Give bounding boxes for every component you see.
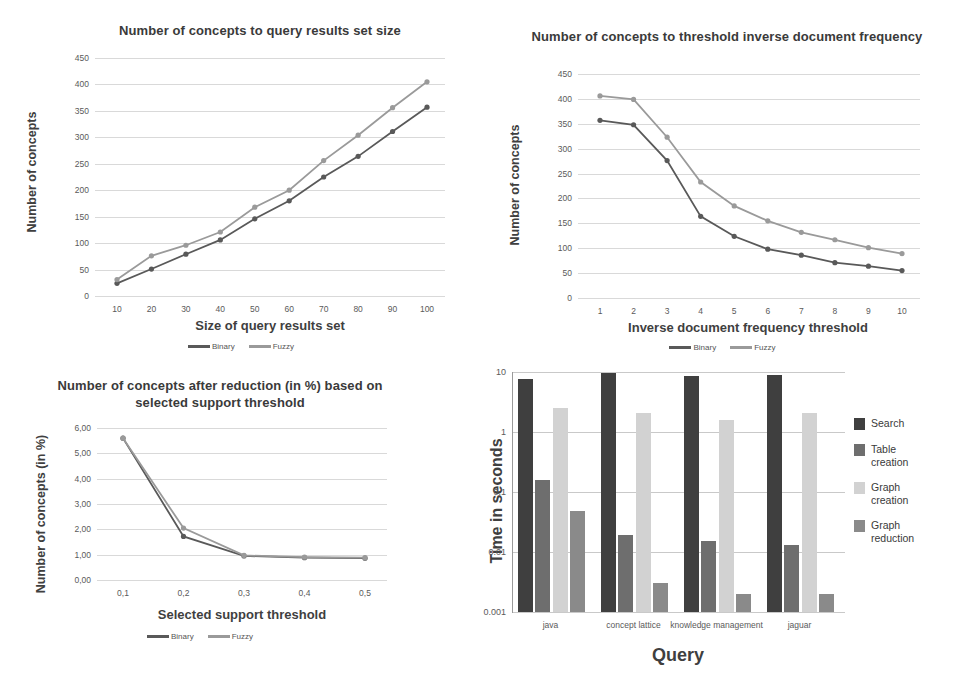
legend-item-binary[interactable]: Binary [147, 632, 194, 641]
x-tick: 50 [250, 304, 259, 314]
y-tick: 2,00 [57, 524, 91, 534]
y-tick: 300 [542, 144, 572, 154]
data-point [183, 252, 188, 257]
data-point [114, 277, 119, 282]
legend-item-fuzzy[interactable]: Fuzzy [730, 343, 775, 352]
bar [553, 408, 568, 612]
legend-swatch-search [854, 418, 865, 430]
chart-concepts-after-reduction: Number of concepts after reduction (in %… [0, 362, 470, 692]
data-point [866, 245, 871, 250]
x-tick: 9 [866, 306, 871, 316]
bar [636, 413, 651, 612]
data-point [799, 230, 804, 235]
chart1-series-svg [95, 58, 445, 296]
data-point [181, 525, 186, 530]
chart4-plot-area [512, 372, 845, 613]
data-point [899, 268, 904, 273]
legend-label-graph-reduction: Graph reduction [871, 519, 914, 544]
data-point [698, 214, 703, 219]
bar [601, 373, 616, 612]
x-tick: 5 [732, 306, 737, 316]
bar [701, 541, 716, 612]
legend-swatch-graph-reduction [854, 520, 865, 532]
legend-swatch-binary [669, 346, 691, 349]
bar [653, 583, 668, 612]
x-tick: concept lattice [606, 620, 660, 630]
legend-item-fuzzy[interactable]: Fuzzy [208, 632, 253, 641]
legend-swatch-table-creation [854, 444, 865, 456]
series-line-binary [123, 438, 365, 558]
x-tick: knowledge management [670, 620, 763, 630]
data-point [356, 133, 361, 138]
bar [518, 379, 533, 612]
bar [570, 511, 585, 612]
chart1-y-axis-label: Number of concepts [25, 97, 39, 247]
x-tick: 7 [799, 306, 804, 316]
bar [736, 594, 751, 612]
y-tick: 5,00 [57, 448, 91, 458]
y-tick: 350 [542, 119, 572, 129]
data-point [149, 266, 154, 271]
x-tick: 2 [631, 306, 636, 316]
chart4-x-axis-label: Query [512, 645, 844, 666]
legend-swatch-binary [188, 345, 210, 348]
bar [767, 375, 782, 612]
data-point [832, 260, 837, 265]
data-point [665, 158, 670, 163]
data-point [765, 218, 770, 223]
y-tick: 150 [542, 218, 572, 228]
chart2-x-axis-label: Inverse document frequency threshold [568, 320, 928, 335]
chart1-title: Number of concepts to query results set … [40, 22, 480, 39]
chart4-legend: Search Table creation Graph creation Gra… [854, 417, 959, 557]
y-tick: 4,00 [57, 474, 91, 484]
bar [618, 535, 633, 612]
y-tick: 450 [59, 53, 89, 63]
legend-label-search: Search [871, 417, 904, 430]
y-tick: 0.001 [462, 607, 506, 617]
legend-item-binary[interactable]: Binary [669, 343, 716, 352]
data-point [631, 97, 636, 102]
y-tick: 100 [59, 238, 89, 248]
x-tick: 100 [420, 304, 434, 314]
legend-item-graph-reduction[interactable]: Graph reduction [854, 519, 959, 544]
data-point [302, 555, 307, 560]
data-point [424, 79, 429, 84]
data-point [218, 229, 223, 234]
y-tick: 300 [59, 132, 89, 142]
data-point [390, 129, 395, 134]
y-tick: 10 [462, 367, 506, 377]
legend-item-table-creation[interactable]: Table creation [854, 443, 959, 468]
series-line-binary [117, 107, 427, 283]
chart2-y-axis-label: Number of concepts [508, 110, 522, 260]
data-point [832, 237, 837, 242]
y-tick: 400 [542, 94, 572, 104]
x-tick: 80 [353, 304, 362, 314]
data-point [631, 122, 636, 127]
x-tick: 0,1 [117, 588, 129, 598]
data-point [181, 534, 186, 539]
x-tick: jaguar [788, 620, 812, 630]
legend-swatch-fuzzy [730, 346, 752, 349]
legend-label-binary: Binary [693, 343, 716, 352]
legend-swatch-fuzzy [208, 635, 230, 638]
x-tick: java [543, 620, 559, 630]
data-point [149, 253, 154, 258]
chart3-plot-area: 6,00 5,00 4,00 3,00 2,00 1,00 0,00 0,10,… [97, 428, 387, 580]
legend-item-fuzzy[interactable]: Fuzzy [249, 342, 294, 351]
data-point [252, 216, 257, 221]
data-point [732, 203, 737, 208]
y-tick: 6,00 [57, 423, 91, 433]
chart2-legend: Binary Fuzzy [482, 343, 963, 352]
y-tick: 0.01 [462, 547, 506, 557]
data-point [765, 247, 770, 252]
x-tick: 70 [319, 304, 328, 314]
chart3-x-axis-label: Selected support threshold [87, 607, 397, 622]
legend-item-graph-creation[interactable]: Graph creation [854, 481, 959, 506]
data-point [287, 198, 292, 203]
data-point [356, 154, 361, 159]
y-tick: 0 [59, 291, 89, 301]
y-tick: 150 [59, 212, 89, 222]
legend-item-search[interactable]: Search [854, 417, 959, 430]
data-point [866, 264, 871, 269]
legend-item-binary[interactable]: Binary [188, 342, 235, 351]
